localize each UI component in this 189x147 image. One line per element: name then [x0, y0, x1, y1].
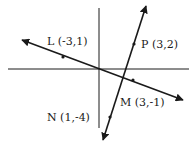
label-P: P (3,2)	[141, 39, 178, 50]
label-L: L (-3,1)	[47, 36, 88, 47]
coordinate-diagram	[0, 0, 189, 147]
point-M	[131, 78, 134, 81]
label-N: N (1,-4)	[47, 112, 90, 123]
point-P	[132, 42, 135, 45]
point-N	[108, 115, 111, 118]
label-M: M (3,-1)	[120, 97, 165, 108]
point-L	[61, 55, 64, 58]
